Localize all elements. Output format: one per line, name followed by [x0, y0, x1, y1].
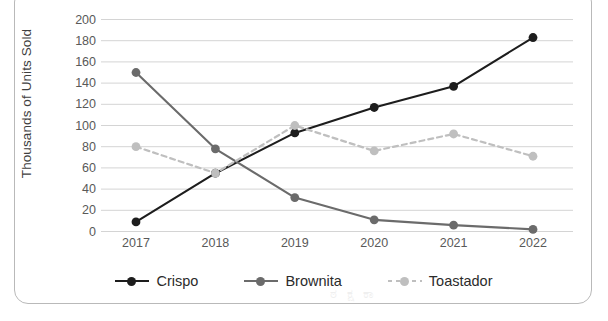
data-point-brownita-2019 [290, 193, 299, 202]
x-tick-2017: 2017 [122, 236, 150, 250]
y-tick-200: 200 [62, 13, 96, 27]
legend-marker-icon [244, 275, 278, 287]
data-point-toastador-2022 [529, 152, 538, 161]
data-point-crispo-2021 [449, 82, 458, 91]
data-point-toastador-2021 [449, 130, 458, 139]
chart-legend: CrispoBrownitaToastador [0, 266, 608, 296]
series-line-brownita [136, 73, 533, 230]
legend-marker-icon [115, 275, 149, 287]
x-tick-2019: 2019 [281, 236, 309, 250]
y-tick-180: 180 [62, 34, 96, 48]
legend-label: Crispo [156, 273, 198, 289]
legend-label: Toastador [429, 273, 493, 289]
y-tick-80: 80 [62, 140, 96, 154]
series-layer [132, 33, 538, 234]
y-tick-160: 160 [62, 55, 96, 69]
data-point-crispo-2020 [370, 103, 379, 112]
legend-item-toastador[interactable]: Toastador [388, 273, 493, 289]
x-tick-2022: 2022 [519, 236, 547, 250]
data-point-brownita-2020 [370, 215, 379, 224]
data-point-toastador-2017 [132, 142, 141, 151]
y-axis-title: Thousands of Units Sold [19, 4, 34, 204]
y-tick-120: 120 [62, 97, 96, 111]
legend-label: Brownita [285, 273, 341, 289]
data-point-brownita-2022 [529, 225, 538, 234]
data-point-brownita-2018 [211, 144, 220, 153]
legend-dot-icon [127, 277, 136, 286]
data-point-crispo-2017 [132, 218, 141, 227]
series-line-toastador [136, 126, 533, 174]
data-point-toastador-2020 [370, 147, 379, 156]
legend-item-crispo[interactable]: Crispo [115, 273, 198, 289]
y-tick-0: 0 [62, 225, 96, 239]
x-tick-2021: 2021 [440, 236, 468, 250]
data-point-brownita-2021 [449, 221, 458, 230]
legend-marker-icon [388, 275, 422, 287]
data-point-toastador-2018 [211, 169, 220, 178]
x-tick-2020: 2020 [360, 236, 388, 250]
data-point-toastador-2019 [290, 121, 299, 130]
data-point-brownita-2017 [132, 68, 141, 77]
data-point-crispo-2022 [529, 33, 538, 42]
y-tick-40: 40 [62, 182, 96, 196]
legend-dot-icon [256, 277, 265, 286]
x-tick-2018: 2018 [201, 236, 229, 250]
legend-item-brownita[interactable]: Brownita [244, 273, 341, 289]
y-tick-140: 140 [62, 76, 96, 90]
y-tick-100: 100 [62, 119, 96, 133]
legend-dot-icon [400, 277, 409, 286]
y-tick-20: 20 [62, 203, 96, 217]
y-tick-60: 60 [62, 161, 96, 175]
